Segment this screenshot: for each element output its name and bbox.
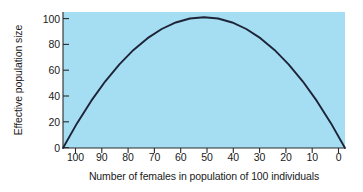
y-tick-label: 60 — [34, 64, 60, 76]
x-axis-label: Number of females in population of 100 i… — [63, 170, 345, 182]
figure: 0 20 40 60 80 100 100 90 80 70 60 50 40 … — [0, 0, 363, 192]
x-tick-label: 0 — [322, 151, 356, 163]
y-tick-label: 40 — [34, 90, 60, 102]
y-tick-label: 100 — [34, 13, 60, 25]
y-tick-label: 80 — [34, 38, 60, 50]
y-tick-label: 0 — [34, 142, 60, 154]
y-tick-label: 20 — [34, 116, 60, 128]
y-tick-label-group: 0 20 40 60 80 100 — [0, 0, 60, 192]
y-tick-marks — [63, 19, 69, 148]
data-curve — [63, 17, 345, 148]
y-axis-label: Effective population size — [12, 5, 24, 155]
